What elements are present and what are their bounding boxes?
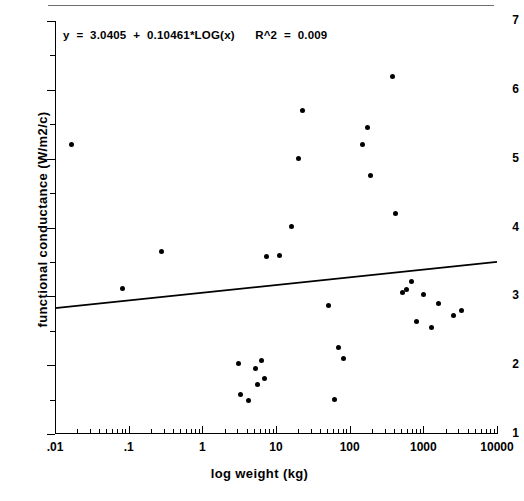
scatter-point: [296, 156, 301, 161]
scatter-point: [390, 74, 395, 79]
scatter-point: [404, 287, 409, 292]
scatter-point: [368, 173, 373, 178]
y-tick-major: [47, 434, 55, 435]
scatter-point: [277, 253, 282, 258]
plot-data-area: [55, 21, 497, 434]
x-tick-label: .01: [25, 440, 85, 454]
scatter-point: [253, 366, 258, 371]
scatter-point: [421, 292, 426, 297]
scatter-point: [365, 125, 370, 130]
scatter-point: [451, 313, 456, 318]
scatter-point: [69, 142, 74, 147]
scatter-point: [414, 319, 419, 324]
y-tick-major: [47, 21, 55, 22]
scatter-point: [393, 211, 398, 216]
scatter-point: [238, 392, 243, 397]
scatter-point: [429, 325, 434, 330]
scatter-point: [436, 301, 441, 306]
x-tick-label: 10: [246, 440, 306, 454]
x-tick-major: [497, 426, 498, 434]
scatter-point: [262, 376, 267, 381]
scatter-point: [289, 224, 294, 229]
x-axis-title: log weight (kg): [0, 466, 519, 481]
scatter-point: [341, 356, 346, 361]
scatter-point: [336, 345, 341, 350]
x-tick-label: 100: [320, 440, 380, 454]
scatter-point: [360, 142, 365, 147]
regression-equation-annotation: y = 3.0405 + 0.10461*LOG(x) R^2 = 0.009: [63, 29, 327, 41]
scatter-point: [236, 361, 241, 366]
scatter-point: [409, 279, 414, 284]
scatter-point: [332, 397, 337, 402]
x-tick-label: 10000: [467, 440, 524, 454]
scatter-point: [326, 303, 331, 308]
scatter-point: [120, 286, 125, 291]
scatter-point: [246, 398, 251, 403]
top-divider-rule: [48, 5, 494, 6]
x-tick-label: 1: [172, 440, 232, 454]
x-tick-label: .1: [99, 440, 159, 454]
x-tick-label: 1000: [393, 440, 453, 454]
scatter-point: [300, 108, 305, 113]
scatter-point: [259, 358, 264, 363]
scatter-point: [159, 249, 164, 254]
scatter-point: [459, 308, 464, 313]
y-axis-title: functional conductance (W/m2/c): [35, 30, 50, 410]
scatter-point: [255, 382, 260, 387]
scatter-point: [264, 254, 269, 259]
